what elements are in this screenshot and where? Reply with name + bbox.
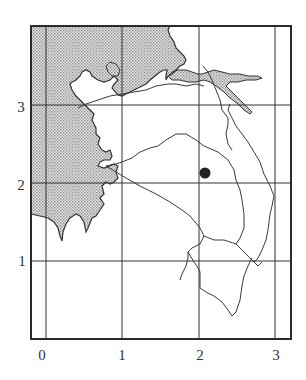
- location-marker: [200, 168, 211, 179]
- map: 0 1 2 3 3 2 1: [0, 0, 306, 380]
- x-tick-label-2: 2: [196, 348, 204, 363]
- shaded-estuary: [168, 70, 262, 114]
- y-tick-label-1: 1: [18, 254, 26, 269]
- y-tick-label-2: 2: [17, 178, 25, 193]
- map-canvas: [0, 0, 306, 380]
- shaded-land-region: [31, 26, 186, 241]
- x-tick-label-1: 1: [118, 348, 126, 363]
- x-tick-label-0: 0: [38, 348, 46, 363]
- x-tick-label-3: 3: [272, 348, 280, 363]
- y-tick-label-3: 3: [17, 100, 25, 115]
- river-lines: [78, 66, 274, 316]
